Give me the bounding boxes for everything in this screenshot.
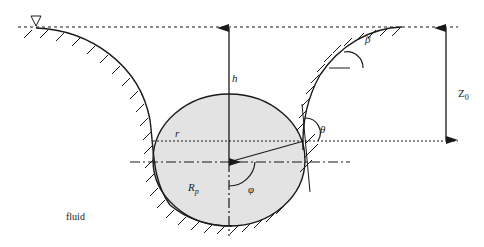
rp-label-sub: p — [195, 187, 199, 196]
r-label: r — [175, 128, 179, 139]
theta-arc — [305, 118, 320, 141]
z0-label-main: Z — [458, 87, 465, 99]
phi-label: φ — [248, 184, 254, 195]
h-label: h — [232, 73, 238, 84]
z0-label-sub: 0 — [465, 93, 469, 102]
diagram-canvas: h β θ r φ Rp Z0 fluid — [0, 0, 484, 247]
beta-arc — [344, 52, 363, 68]
theta-label: θ — [320, 124, 325, 135]
rp-label: Rp — [188, 182, 199, 196]
rp-label-main: R — [188, 181, 195, 193]
water-level-icon — [31, 16, 41, 26]
diagram-svg — [0, 0, 484, 247]
beta-label: β — [365, 34, 370, 45]
right-meniscus-wall — [303, 27, 402, 150]
z0-label: Z0 — [458, 88, 469, 102]
fluid-label: fluid — [66, 212, 85, 222]
right-wall-hatching — [297, 28, 400, 172]
